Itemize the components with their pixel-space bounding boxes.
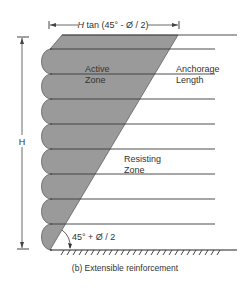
ground-hatch <box>109 250 112 255</box>
ground-hatch <box>97 250 100 255</box>
diagram-canvas: H tan (45° - Ø / 2) H Active Zone Anchor… <box>0 0 251 289</box>
ground-hatch <box>181 250 184 255</box>
extensible-reinforcement-diagram: H tan (45° - Ø / 2) H Active Zone Anchor… <box>0 0 251 289</box>
ground-hatch <box>67 250 70 255</box>
ground-hatch <box>163 250 166 255</box>
ground-hatch <box>157 250 160 255</box>
ground-hatch <box>193 250 196 255</box>
width-dimension: H tan (45° - Ø / 2) <box>49 20 179 30</box>
height-dimension: H <box>17 37 29 249</box>
ground-hatch <box>139 250 142 255</box>
ground-hatch <box>211 250 214 255</box>
ground-hatch <box>79 250 82 255</box>
ground-hatch <box>127 250 130 255</box>
ground-hatch <box>133 250 136 255</box>
ground-hatch <box>73 250 76 255</box>
ground-hatch <box>121 250 124 255</box>
width-dimension-label: H tan (45° - Ø / 2) <box>77 20 148 30</box>
resisting-zone-label-1: Resisting <box>124 154 161 164</box>
ground-hatch <box>169 250 172 255</box>
angle-label: 45° + Ø / 2 <box>72 232 115 242</box>
anchorage-label-1: Anchorage <box>176 64 220 74</box>
ground-hatch <box>199 250 202 255</box>
resisting-zone-label-2: Zone <box>124 165 145 175</box>
ground-hatch <box>151 250 154 255</box>
ground-hatch <box>61 250 64 255</box>
ground-hatch <box>103 250 106 255</box>
ground-hatch <box>175 250 178 255</box>
ground-hatch <box>115 250 118 255</box>
ground-hatch <box>205 250 208 255</box>
ground-hatch <box>187 250 190 255</box>
active-zone-fill <box>42 35 179 250</box>
angle-arrowhead <box>68 243 72 249</box>
caption: (b) Extensible reinforcement <box>72 263 179 273</box>
ground-hatch <box>145 250 148 255</box>
active-zone-label-2: Zone <box>85 75 106 85</box>
anchorage-label-2: Length <box>176 75 204 85</box>
ground-hatch <box>217 250 220 255</box>
active-zone-region <box>42 35 179 250</box>
ground-hatch <box>85 250 88 255</box>
ground-line <box>50 250 237 255</box>
ground-hatch <box>91 250 94 255</box>
height-label: H <box>19 137 26 147</box>
active-zone-label-1: Active <box>85 64 110 74</box>
